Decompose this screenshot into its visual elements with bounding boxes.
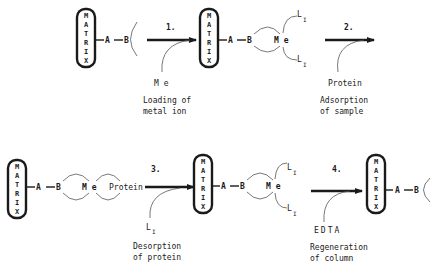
svg-text:B: B: [414, 186, 419, 195]
matrix-3: M A T R I X: [8, 160, 26, 218]
svg-text:M e: M e: [266, 182, 281, 191]
matrix-2: M A T R I X: [200, 9, 218, 67]
svg-text:A: A: [228, 36, 233, 45]
svg-text:metal ion: metal ion: [143, 107, 187, 116]
svg-text:B: B: [240, 182, 245, 191]
svg-text:1.: 1.: [166, 23, 176, 32]
svg-text:X: X: [15, 208, 20, 216]
svg-text:M: M: [84, 12, 88, 20]
svg-text:X: X: [201, 203, 206, 211]
svg-text:T: T: [207, 30, 211, 38]
svg-text:A: A: [395, 186, 400, 195]
svg-text:A: A: [15, 172, 20, 180]
atom-b: B: [124, 36, 129, 45]
step-3-caption: Desorption: [133, 242, 181, 251]
svg-text:L: L: [287, 204, 292, 213]
svg-text:I: I: [201, 194, 205, 202]
step-2-caption: Adsorption: [320, 96, 368, 105]
svg-text:of sample: of sample: [320, 107, 364, 116]
svg-text:I: I: [152, 228, 156, 235]
svg-text:I: I: [303, 61, 307, 68]
svg-text:4.: 4.: [332, 165, 342, 174]
matrix-5: M A T R I X: [367, 155, 385, 213]
svg-text:I: I: [207, 48, 211, 56]
svg-text:of protein: of protein: [133, 253, 181, 262]
svg-text:R: R: [84, 39, 89, 47]
svg-text:A: A: [207, 21, 212, 29]
svg-text:R: R: [374, 185, 379, 193]
step-2-reagent: Protein: [328, 79, 362, 88]
svg-text:M: M: [15, 163, 19, 171]
matrix-1: M A T R I X: [77, 9, 95, 67]
svg-text:T: T: [201, 176, 205, 184]
step-3-reagent: L: [146, 223, 151, 232]
svg-text:I: I: [84, 48, 88, 56]
svg-text:I: I: [374, 194, 378, 202]
svg-text:M: M: [207, 12, 211, 20]
svg-text:3.: 3.: [151, 165, 161, 174]
svg-text:M: M: [374, 158, 378, 166]
matrix-4: M A T R I X: [194, 155, 212, 213]
atom-a: A: [105, 36, 110, 45]
svg-text:Protein: Protein: [109, 183, 143, 192]
svg-text:2.: 2.: [344, 23, 354, 32]
svg-text:X: X: [374, 203, 379, 211]
svg-text:T: T: [15, 181, 19, 189]
svg-text:L: L: [287, 163, 292, 172]
svg-text:A: A: [221, 182, 226, 191]
svg-text:I: I: [293, 169, 297, 176]
svg-text:X: X: [84, 57, 89, 65]
svg-text:R: R: [207, 39, 212, 47]
step-4-reagent: EDTA: [314, 226, 341, 235]
step-1-caption: Loading of: [143, 96, 191, 105]
svg-text:R: R: [15, 190, 20, 198]
step-4-caption: Regeneration: [310, 243, 368, 252]
svg-text:X: X: [207, 57, 212, 65]
svg-text:T: T: [374, 176, 378, 184]
svg-text:A: A: [374, 167, 379, 175]
svg-text:A: A: [36, 183, 41, 192]
svg-text:R: R: [201, 185, 206, 193]
svg-text:M e: M e: [274, 36, 289, 45]
affinity-chromatography-diagram: M A T R I X A B 1. M e Loading of metal …: [0, 0, 441, 273]
svg-text:L: L: [297, 10, 302, 19]
svg-text:L: L: [297, 55, 302, 64]
svg-text:I: I: [293, 210, 297, 217]
svg-text:A: A: [201, 167, 206, 175]
svg-text:of column: of column: [310, 254, 354, 263]
svg-text:A: A: [84, 21, 89, 29]
svg-text:B: B: [247, 36, 252, 45]
svg-text:I: I: [303, 16, 307, 23]
svg-text:M: M: [201, 158, 205, 166]
step-1-reagent: M e: [154, 79, 169, 88]
svg-text:B: B: [56, 183, 61, 192]
svg-text:T: T: [84, 30, 88, 38]
svg-text:I: I: [15, 199, 19, 207]
svg-text:M e: M e: [82, 183, 97, 192]
